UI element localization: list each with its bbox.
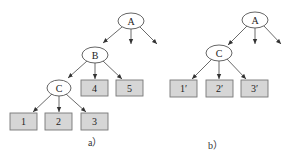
edge-b-a-right [264,26,281,44]
edge-a-right [140,27,157,44]
node-b-a: A [242,12,268,28]
edge-c-to-1 [33,94,52,112]
edge-b-to-5 [103,61,122,79]
node-b-label: B [92,50,99,61]
leaf-5-label: 5 [127,83,132,94]
leaf-2-prime-label: 2′ [216,83,223,94]
node-b-c-label: C [216,48,223,59]
diagram-a: A B C 4 5 1 2 3 a） [10,13,157,148]
leaf-3-prime-label: 3′ [251,83,258,94]
tree-diagrams: A B C 4 5 1 2 3 a） [0,0,289,160]
leaf-4-label: 4 [92,83,97,94]
node-b: B [82,47,108,63]
leaf-1-label: 1 [21,116,26,127]
caption-b: b） [208,140,223,151]
leaf-3-prime: 3′ [241,80,268,97]
leaf-1-prime: 1′ [170,80,197,97]
edge-b-to-c [68,61,87,78]
leaf-1-prime-label: 1′ [180,83,187,94]
leaf-2: 2 [45,113,72,130]
leaf-2-label: 2 [56,116,61,127]
node-b-a-label: A [251,15,259,26]
edge-b-c-to-1 [192,59,212,79]
leaf-2-prime: 2′ [206,80,233,97]
leaf-4: 4 [81,80,108,96]
node-c: C [47,80,71,96]
edge-b-a-to-c [228,26,247,45]
leaf-5: 5 [116,80,143,96]
edge-b-c-to-3 [227,59,246,79]
edge-a-to-b [103,27,122,43]
node-a: A [118,13,144,29]
node-a-label: A [127,16,135,27]
diagram-b: A C 1′ 2′ 3′ b） [170,12,281,151]
leaf-3-label: 3 [92,116,97,127]
leaf-1: 1 [10,113,37,130]
edge-c-to-3 [66,94,86,112]
node-b-c: C [206,45,232,61]
node-c-label: C [56,83,63,94]
caption-a: a） [88,137,102,148]
leaf-3: 3 [81,113,108,130]
